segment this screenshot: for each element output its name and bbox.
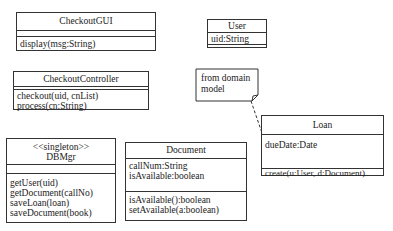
note-text-line: from domain xyxy=(201,73,253,84)
note-connector xyxy=(251,101,262,133)
note-text-line: model xyxy=(201,84,253,95)
note-from-domain-model: from domain model xyxy=(196,69,258,101)
note-shapes xyxy=(0,0,393,231)
